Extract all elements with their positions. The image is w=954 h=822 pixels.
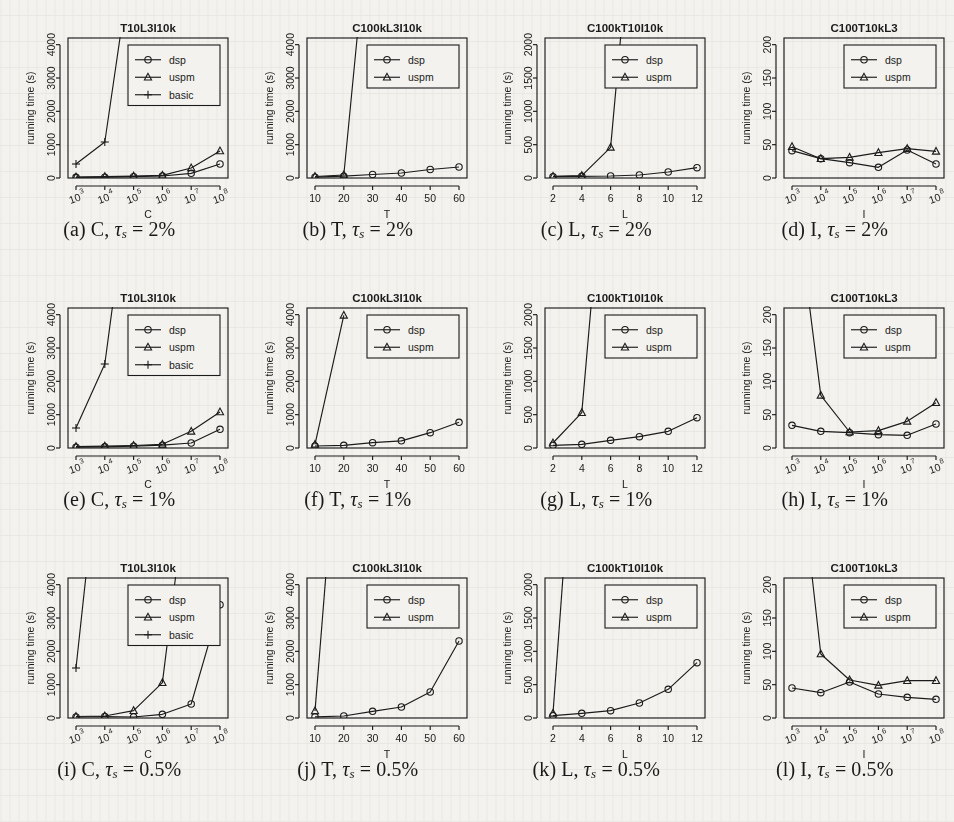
plot-title: C100kL3I10k (352, 562, 422, 574)
marker-basic (72, 424, 80, 432)
x-tick-label: 4 (579, 732, 585, 744)
x-axis-label: C (144, 208, 152, 220)
caption-tau-subscript: s (825, 766, 830, 781)
plot-title: C100kT10I10k (587, 292, 664, 304)
y-tick-label: 1000 (284, 133, 296, 157)
x-axis-label: T (384, 478, 391, 490)
legend-label: uspm (885, 341, 911, 353)
plot-e: T10L3I10k01000200030004000running time (… (0, 270, 238, 492)
legend-label: dsp (646, 54, 663, 66)
y-tick-label: 50 (761, 139, 773, 151)
x-tick-label: 20 (338, 192, 350, 204)
y-tick-label: 2000 (45, 369, 57, 393)
y-tick-label: 1000 (522, 369, 534, 393)
y-tick-label: 4000 (45, 303, 57, 327)
plot-container-g: C100kT10I10k0500100015002000running time… (477, 270, 715, 492)
series-dsp (312, 638, 462, 720)
x-tick-label: 50 (424, 192, 436, 204)
x-axis-label: I (862, 208, 865, 220)
y-axis-label: running time (s) (24, 342, 36, 415)
y-axis-label: running time (s) (24, 612, 36, 685)
x-tick-label: 50 (424, 462, 436, 474)
svg-text:6: 6 (608, 732, 614, 744)
x-tick-label: 2 (550, 732, 556, 744)
x-axis: 103104105106107108 (783, 726, 945, 746)
y-tick-label: 0 (522, 445, 534, 451)
x-axis: 24681012 (550, 726, 703, 744)
y-tick-label: 2000 (284, 99, 296, 123)
series-dsp (312, 419, 462, 449)
x-axis: 102030405060 (309, 726, 465, 744)
svg-text:50: 50 (424, 732, 436, 744)
plot-container-h: C100T10kL3050100150200running time (s)10… (716, 270, 954, 492)
y-axis: 01000200030004000 (45, 33, 60, 181)
y-tick-label: 4000 (284, 573, 296, 597)
svg-text:10: 10 (309, 732, 321, 744)
marker-uspm (788, 143, 795, 150)
series-basic (72, 540, 105, 672)
plot-container-a: T10L3I10k01000200030004000running time (… (0, 0, 238, 222)
y-tick-label: 0 (522, 715, 534, 721)
x-axis: 102030405060 (309, 186, 465, 204)
series-dsp (789, 421, 939, 439)
figure-panel-f: C100kL3I10k01000200030004000running time… (239, 270, 478, 540)
y-axis-label: running time (s) (24, 72, 36, 145)
svg-text:8: 8 (637, 732, 643, 744)
y-tick-label: 500 (522, 406, 534, 424)
y-tick-label: 2000 (284, 639, 296, 663)
x-tick-label: 10 (663, 192, 675, 204)
y-tick-label: 1000 (45, 133, 57, 157)
marker-uspm (217, 408, 224, 415)
legend-label: dsp (408, 594, 425, 606)
legend-label: basic (169, 359, 194, 371)
legend: dspuspm (844, 585, 936, 628)
y-tick-label: 0 (284, 175, 296, 181)
y-tick-label: 500 (522, 676, 534, 694)
y-tick-label: 150 (761, 609, 773, 627)
plot-g: C100kT10I10k0500100015002000running time… (477, 270, 715, 492)
caption-tau-subscript: s (122, 496, 127, 511)
plot-j: C100kL3I10k01000200030004000running time… (239, 540, 477, 762)
y-tick-label: 0 (45, 445, 57, 451)
y-axis: 01000200030004000 (284, 573, 299, 721)
svg-text:50: 50 (424, 462, 436, 474)
svg-text:4: 4 (579, 462, 585, 474)
y-tick-label: 2000 (284, 369, 296, 393)
y-tick-label: 150 (761, 69, 773, 87)
y-axis-label: running time (s) (740, 342, 752, 415)
x-axis-label: T (384, 208, 391, 220)
y-axis: 01000200030004000 (284, 303, 299, 451)
caption-tau-subscript: s (591, 766, 596, 781)
caption-tau-subscript: s (834, 496, 839, 511)
x-tick-label: 12 (691, 462, 703, 474)
series-uspm (311, 540, 343, 714)
x-axis-label: C (144, 748, 152, 760)
legend: dspuspmbasic (128, 315, 220, 376)
svg-text:40: 40 (395, 732, 407, 744)
marker-dsp (789, 147, 795, 153)
y-tick-label: 4000 (45, 573, 57, 597)
x-tick-label: 30 (367, 462, 379, 474)
x-tick-label: 4 (579, 462, 585, 474)
y-axis-label: running time (s) (263, 72, 275, 145)
y-tick-label: 1500 (522, 336, 534, 360)
plot-container-c: C100kT10I10k0500100015002000running time… (477, 0, 715, 222)
legend: dspuspm (844, 315, 936, 358)
figure-panel-a: T10L3I10k01000200030004000running time (… (0, 0, 239, 270)
x-tick-label: 2 (550, 462, 556, 474)
y-tick-label: 0 (761, 715, 773, 721)
marker-uspm (217, 147, 224, 154)
svg-text:8: 8 (637, 192, 643, 204)
caption-tau-subscript: s (358, 496, 363, 511)
svg-text:20: 20 (338, 732, 350, 744)
x-tick-label: 6 (608, 732, 614, 744)
x-tick-label: 6 (608, 192, 614, 204)
caption-tau-subscript: s (598, 226, 603, 241)
figure-panel-d: C100T10kL3050100150200running time (s)10… (716, 0, 954, 270)
y-axis: 01000200030004000 (45, 573, 60, 721)
x-tick-label: 10 (309, 462, 321, 474)
figure-panel-h: C100T10kL3050100150200running time (s)10… (716, 270, 954, 540)
x-tick-label: 4 (579, 192, 585, 204)
figure-panel-i: T10L3I10k01000200030004000running time (… (0, 540, 239, 822)
x-axis: 24681012 (550, 456, 703, 474)
